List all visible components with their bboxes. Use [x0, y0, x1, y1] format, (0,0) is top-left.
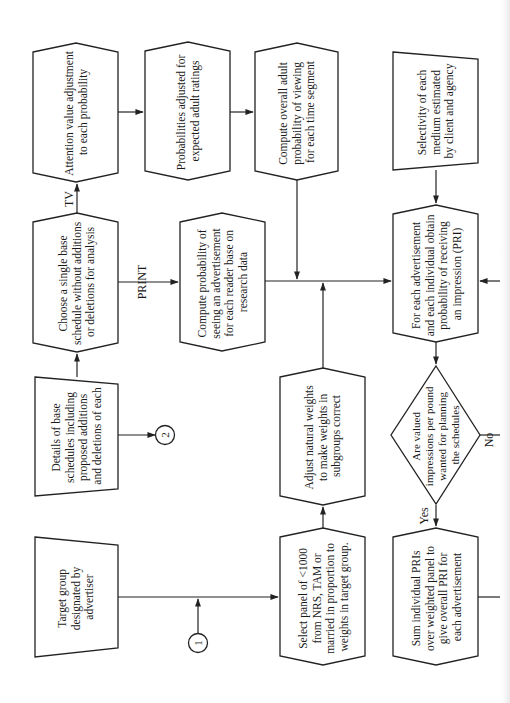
node-pri-line-4: an impression (PRI) — [451, 228, 464, 321]
node-selectivity: Selectivity of each medium estimated by … — [393, 52, 478, 170]
node-select-line-2: from NRS, TAM or — [311, 553, 324, 643]
flowchart-canvas: Attention value adjustment to each proba… — [0, 0, 510, 703]
node-details-line-1: Details of base — [50, 403, 62, 471]
node-choose-line-1: Choose a single base — [57, 235, 70, 331]
edge-label-tv: TV — [62, 191, 76, 207]
node-decision-line-3: wanted for planning — [436, 392, 448, 481]
node-pri-line-3: probability of receiving — [437, 221, 450, 330]
node-obtain-pri: For each advertisement and each individu… — [393, 205, 478, 342]
node-target-line-3: advertiser — [83, 574, 95, 620]
node-sum-line-3: give overall PRI for — [437, 552, 450, 644]
node-select-panel: Select panel of <1000 from NRS, TAM or m… — [280, 528, 365, 665]
connector-1: 1 — [189, 634, 208, 653]
node-sum-line-2: over weighted panel to — [424, 546, 437, 651]
svg-text:Choose a single base sch: Choose a single base schedule without ad… — [57, 219, 97, 345]
node-adjust-weights: Adjust natural weights to make weights i… — [280, 368, 365, 505]
node-seeing-line-3: for each reader base on — [223, 230, 235, 337]
svg-text:Probabilities adjusted for: Probabilities adjusted for expected adul… — [175, 52, 202, 171]
node-sum-pri: Sum individual PRIs over weighted panel … — [393, 528, 478, 665]
svg-text:Details of base schedule: Details of base schedules including prop… — [50, 387, 103, 485]
edge-label-no: No — [482, 433, 496, 448]
node-probabilities-line-2: expected adult ratings — [189, 60, 202, 161]
node-probabilities-line-1: Probabilities adjusted for — [175, 54, 188, 170]
node-choose-schedule: Choose a single base schedule without ad… — [33, 213, 118, 352]
node-select-line-4: weights in target group. — [338, 542, 351, 651]
node-pri-line-1: For each advertisement — [410, 221, 422, 329]
node-seeing-line-2: seeing an advertisement — [210, 227, 223, 338]
node-select-line-3: married in proportion to — [324, 543, 337, 654]
node-details-line-3: proposed additions — [77, 393, 90, 481]
node-seeing-line-1: Compute probability of — [196, 229, 209, 337]
node-target-line-1: Target group — [56, 569, 69, 628]
node-overall-line-3: for each time segment — [304, 60, 317, 163]
node-attention: Attention value adjustment to each proba… — [33, 43, 118, 182]
svg-text:Select panel of <1000 fr: Select panel of <1000 from NRS, TAM or m… — [297, 540, 351, 654]
svg-text:Selectivity of each medi: Selectivity of each medium estimated by … — [416, 63, 456, 158]
node-decision-line-4: the schedules — [449, 406, 461, 465]
node-choose-line-3: or deletions for analysis — [84, 226, 97, 337]
edge-label-print: PRINT — [135, 264, 149, 299]
svg-text:For each advertisement a: For each advertisement and each individu… — [410, 212, 464, 337]
node-selectivity-line-3: by client and agency — [443, 63, 456, 158]
node-select-line-1: Select panel of <1000 — [297, 548, 310, 649]
node-target-line-2: designated by — [70, 566, 83, 630]
node-overall-adult: Compute overall adult probability of vie… — [255, 43, 338, 180]
node-details: Details of base schedules including prop… — [35, 377, 118, 496]
connector-2: 2 — [156, 426, 175, 445]
node-choose-line-2: schedule without additions — [71, 221, 83, 345]
node-overall-line-1: Compute overall adult — [277, 61, 290, 165]
node-seeing-line-4: research data — [237, 252, 249, 312]
svg-text:Compute overall adult pr: Compute overall adult probability of vie… — [277, 59, 317, 165]
node-details-line-4: and deletions of each — [91, 387, 103, 485]
node-probabilities: Probabilities adjusted for expected adul… — [145, 42, 230, 180]
node-overall-line-2: probability of viewing — [291, 62, 304, 165]
node-adjust-line-2: to make weights in — [317, 394, 330, 481]
node-target-group: Target group designated by advertiser — [35, 537, 118, 657]
node-sum-line-4: each advertisement — [451, 552, 463, 641]
svg-text:Sum individual PRIs over: Sum individual PRIs over weighted panel … — [410, 543, 463, 651]
edge-label-yes: Yes — [417, 507, 431, 525]
node-decision: Are valued impressions per pound wanted … — [391, 366, 480, 504]
connector-1-label: 1 — [192, 640, 204, 646]
node-sum-line-1: Sum individual PRIs — [410, 550, 422, 646]
node-details-line-2: schedules including — [64, 392, 77, 483]
node-selectivity-line-2: medium estimated — [430, 70, 442, 155]
connector-2-label: 2 — [159, 432, 171, 438]
node-pri-line-2: and each individual obtain — [424, 214, 436, 336]
node-selectivity-line-1: Selectivity of each — [416, 69, 429, 155]
node-attention-line-2: to each probability — [77, 69, 90, 155]
node-adjust-line-1: Adjust natural weights — [303, 385, 316, 490]
node-compute-seeing: Compute probability of seeing an adverti… — [180, 213, 265, 351]
svg-text:Adjust natural weights t: Adjust natural weights to make weights i… — [303, 383, 343, 490]
node-adjust-line-3: subgroups correct — [330, 394, 343, 477]
node-decision-line-2: impressions per pound — [423, 386, 435, 486]
node-attention-line-1: Attention value adjustment — [63, 50, 76, 175]
node-decision-line-1: Are valued — [410, 412, 422, 461]
